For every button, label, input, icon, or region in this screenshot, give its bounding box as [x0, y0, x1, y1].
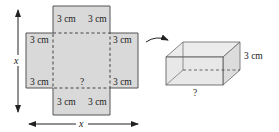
net-to-box-diagram: 3 cm 3 cm 3 cm 3 cm 3 cm 3 cm 3 cm 3 cm … — [0, 0, 279, 132]
top-flap-left-label: 3 cm — [57, 14, 76, 24]
fold-arrow-icon — [146, 38, 168, 42]
left-flap-bottom-label: 3 cm — [30, 77, 49, 87]
horizontal-x-label: x — [78, 118, 84, 129]
right-flap-top-label: 3 cm — [113, 35, 132, 45]
top-flap-right-label: 3 cm — [88, 14, 107, 24]
vertical-x-label: x — [13, 55, 19, 66]
bottom-flap-left-label: 3 cm — [57, 97, 76, 107]
box-height-label: 3 cm — [244, 51, 263, 61]
box-front-face — [166, 57, 223, 85]
net-outline — [26, 6, 138, 115]
vertical-dimension: x — [13, 10, 19, 112]
box-net: 3 cm 3 cm 3 cm 3 cm 3 cm 3 cm 3 cm 3 cm … — [26, 6, 138, 115]
left-flap-top-label: 3 cm — [30, 35, 49, 45]
right-flap-bottom-label: 3 cm — [113, 77, 132, 87]
base-length-unknown-label: ? — [80, 77, 84, 87]
box-length-label: ? — [193, 88, 197, 98]
open-box: 3 cm ? — [166, 42, 263, 98]
bottom-flap-right-label: 3 cm — [88, 97, 107, 107]
horizontal-dimension: x — [29, 118, 138, 129]
